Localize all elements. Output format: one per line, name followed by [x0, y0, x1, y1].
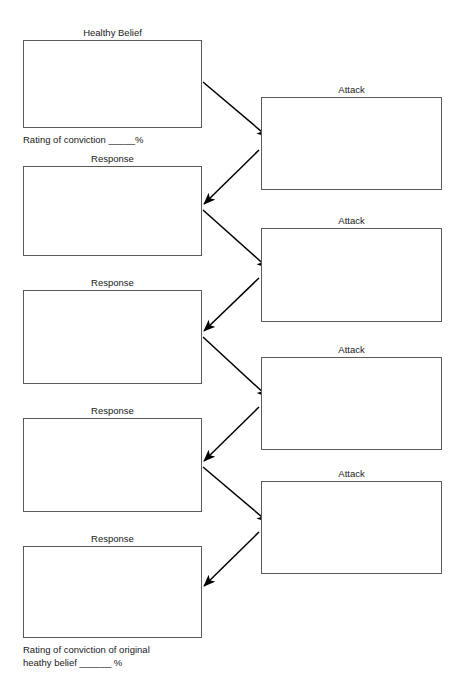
- node-label-healthy-belief: Healthy Belief: [23, 27, 202, 39]
- input-attack-1[interactable]: [261, 97, 442, 190]
- arrow-attack4-to-response4: [204, 532, 259, 586]
- input-response-2[interactable]: [23, 290, 202, 384]
- node-label-response-2: Response: [23, 277, 202, 289]
- node-label-attack-2: Attack: [261, 215, 442, 227]
- node-label-response-4: Response: [23, 533, 202, 545]
- node-label-attack-3: Attack: [261, 344, 442, 356]
- input-attack-3[interactable]: [261, 357, 442, 450]
- arrow-response3-to-attack4: [203, 467, 268, 522]
- input-response-4[interactable]: [23, 546, 202, 638]
- worksheet-canvas: Healthy Belief Rating of conviction ____…: [0, 0, 465, 688]
- node-attack-4: Attack: [261, 468, 442, 574]
- node-attack-1: Attack: [261, 84, 442, 190]
- input-response-3[interactable]: [23, 418, 202, 512]
- input-response-1[interactable]: [23, 166, 202, 256]
- arrow-response2-to-attack3: [203, 337, 268, 397]
- arrow-response1-to-attack2: [203, 210, 268, 268]
- node-label-attack-4: Attack: [261, 468, 442, 480]
- node-response-3: Response: [23, 405, 202, 512]
- arrow-attack1-to-response1: [204, 150, 259, 204]
- arrow-belief-to-attack1: [203, 82, 268, 137]
- node-label-response-3: Response: [23, 405, 202, 417]
- input-attack-4[interactable]: [261, 481, 442, 574]
- caption-bottom-rating: Rating of conviction of original heathy …: [23, 643, 233, 669]
- node-attack-2: Attack: [261, 215, 442, 322]
- node-response-4: Response: [23, 533, 202, 638]
- node-healthy-belief: Healthy Belief: [23, 27, 202, 128]
- node-response-2: Response: [23, 277, 202, 384]
- node-response-1: Response: [23, 153, 202, 256]
- node-label-response-1: Response: [23, 153, 202, 165]
- input-attack-2[interactable]: [261, 228, 442, 322]
- arrow-attack2-to-response2: [204, 278, 259, 331]
- caption-top-rating: Rating of conviction _____%: [23, 133, 223, 146]
- arrow-attack3-to-response3: [204, 407, 259, 461]
- input-healthy-belief[interactable]: [23, 40, 202, 128]
- node-attack-3: Attack: [261, 344, 442, 450]
- node-label-attack-1: Attack: [261, 84, 442, 96]
